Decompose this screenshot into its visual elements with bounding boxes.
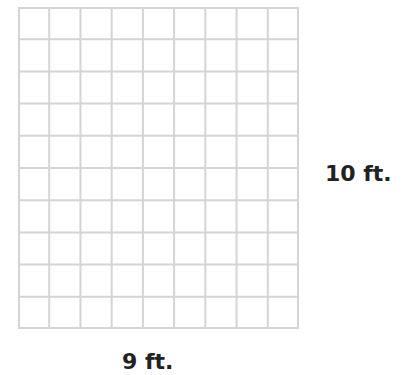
width-label: 9 ft. — [122, 349, 173, 374]
grid-rectangle — [18, 7, 299, 329]
height-label: 10 ft. — [325, 161, 392, 186]
